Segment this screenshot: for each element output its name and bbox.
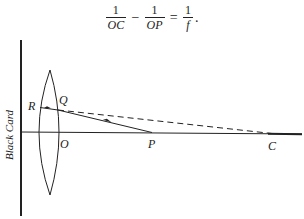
ray-p-to-q [58,110,152,133]
black-card-label: Black Card [3,110,15,160]
label-o: O [60,137,69,151]
dashed-line-q-to-c [58,110,272,134]
axis-end-marker [268,134,302,135]
label-p: P [147,137,156,151]
label-r: R [27,99,36,113]
label-q: Q [59,93,68,107]
label-c: C [268,139,277,153]
optics-diagram: Black Card R Q O P C [0,0,304,219]
arrow-icon [44,106,51,108]
